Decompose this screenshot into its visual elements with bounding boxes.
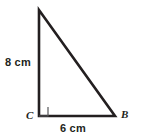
horizontal-leg-measure-label: 6 cm — [60, 123, 86, 134]
right-triangle-figure: 8 cm 6 cm C B — [0, 0, 145, 140]
triangle-shape — [39, 10, 115, 116]
vertex-label-c: C — [26, 110, 33, 121]
vertical-leg-measure-label: 8 cm — [5, 57, 31, 68]
vertex-label-b: B — [121, 109, 128, 120]
right-angle-marker-icon — [39, 107, 48, 116]
